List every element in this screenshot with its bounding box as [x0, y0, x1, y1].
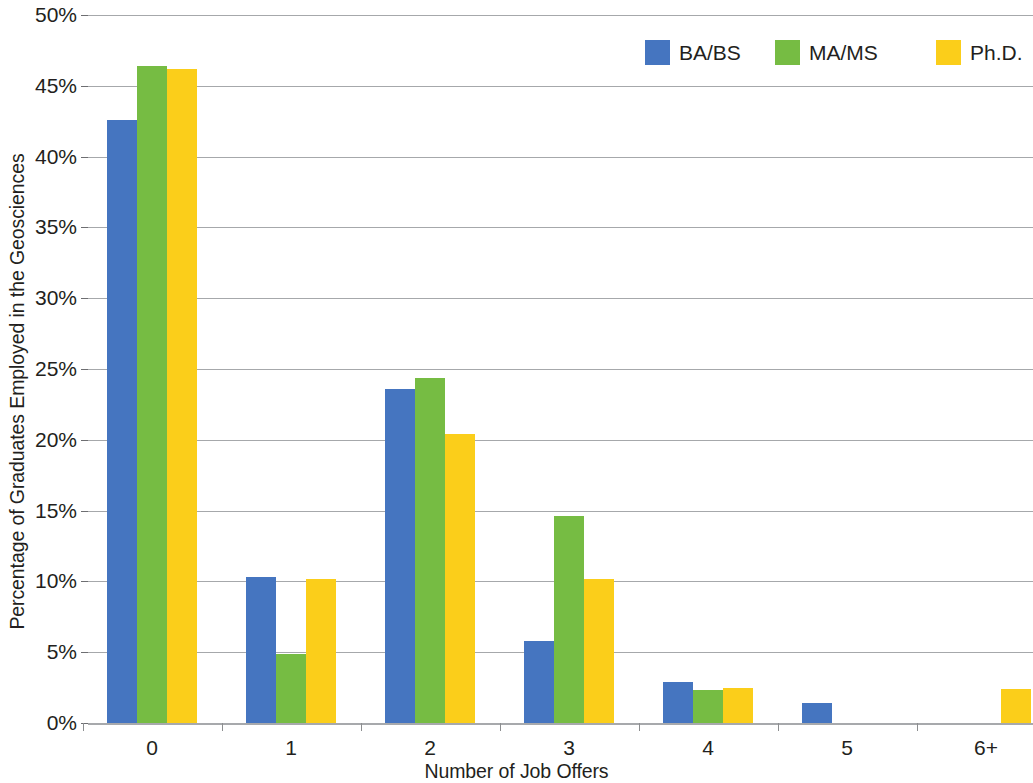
legend-item-ba-bs[interactable]: BA/BS: [645, 40, 741, 65]
y-tick-label: 30%: [35, 286, 77, 310]
x-axis-line: [88, 723, 1033, 725]
x-tick-mark: [778, 723, 779, 731]
bar: [137, 66, 167, 723]
y-tick-mark: [81, 227, 88, 228]
y-tick-mark: [81, 157, 88, 158]
bar: [554, 516, 584, 723]
y-tick-mark: [81, 369, 88, 370]
y-tick-label: 40%: [35, 145, 77, 169]
y-tick-label: 25%: [35, 357, 77, 381]
x-tick-label: 2: [424, 736, 436, 760]
x-tick-label: 0: [146, 736, 158, 760]
y-tick-label: 15%: [35, 499, 77, 523]
bar: [167, 69, 197, 723]
bar: [385, 389, 415, 723]
y-tick-label: 50%: [35, 3, 77, 27]
bar: [723, 688, 753, 723]
bar: [802, 703, 832, 723]
x-axis-title: Number of Job Offers: [0, 760, 1033, 783]
plot-area: 0%5%10%15%20%25%30%35%40%45%50%: [88, 15, 1033, 723]
x-tick-label: 1: [285, 736, 297, 760]
bar: [445, 434, 475, 723]
legend-swatch-icon: [775, 40, 800, 65]
bar: [693, 690, 723, 723]
x-tick-mark: [500, 723, 501, 731]
bars-layer: [88, 15, 1033, 723]
y-axis-title: Percentage of Graduates Employed in the …: [0, 0, 34, 783]
y-tick-label: 10%: [35, 569, 77, 593]
bar-chart: Percentage of Graduates Employed in the …: [0, 0, 1033, 783]
x-tick-mark: [917, 723, 918, 731]
legend-swatch-icon: [645, 40, 670, 65]
legend-swatch-icon: [936, 40, 961, 65]
legend-item-ma-ms[interactable]: MA/MS: [775, 40, 878, 65]
y-tick-label: 35%: [35, 215, 77, 239]
bar: [276, 654, 306, 723]
y-tick-label: 45%: [35, 74, 77, 98]
bar: [415, 378, 445, 724]
y-tick-mark: [81, 511, 88, 512]
x-tick-mark: [639, 723, 640, 731]
y-tick-label: 20%: [35, 428, 77, 452]
x-tick-label: 5: [841, 736, 853, 760]
x-tick-mark: [222, 723, 223, 731]
bar: [584, 579, 614, 723]
x-tick-label: 4: [702, 736, 714, 760]
legend-item-ph-d[interactable]: Ph.D.: [936, 40, 1023, 65]
bar: [663, 682, 693, 723]
x-tick-mark: [361, 723, 362, 731]
y-tick-label: 0%: [47, 711, 77, 735]
y-tick-mark: [81, 15, 88, 16]
bar: [246, 577, 276, 723]
legend-label: MA/MS: [809, 41, 878, 65]
legend-label: BA/BS: [679, 41, 741, 65]
bar: [107, 120, 137, 723]
x-tick-label: 3: [563, 736, 575, 760]
bar: [306, 579, 336, 723]
y-tick-mark: [81, 652, 88, 653]
x-tick-mark: [83, 723, 84, 731]
y-tick-mark: [81, 298, 88, 299]
y-tick-label: 5%: [47, 640, 77, 664]
legend-label: Ph.D.: [970, 41, 1023, 65]
y-tick-mark: [81, 581, 88, 582]
bar: [1001, 689, 1031, 723]
y-tick-mark: [81, 440, 88, 441]
y-tick-mark: [81, 86, 88, 87]
bar: [524, 641, 554, 723]
x-tick-label: 6+: [974, 736, 998, 760]
